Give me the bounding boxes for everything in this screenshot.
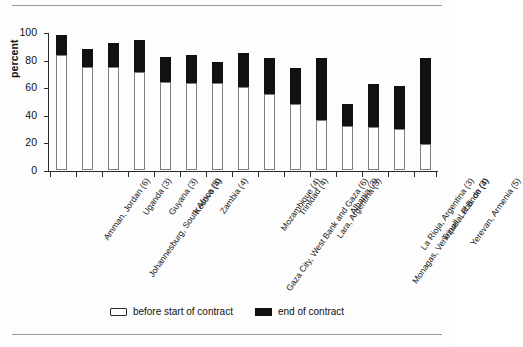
legend-label: before start of contract	[133, 306, 233, 317]
bar-stack	[316, 58, 327, 170]
x-axis-tick-labels: Amman, Jordan (6)Johannesburg, South Afr…	[48, 176, 448, 296]
bar-stack	[420, 58, 431, 170]
y-tick-label: 100	[19, 26, 37, 39]
legend-item: end of contract	[255, 306, 344, 317]
y-tick: 60	[44, 88, 49, 89]
bar-segment-end-of-contract	[316, 58, 327, 120]
bar-segment-end-of-contract	[82, 49, 93, 67]
x-axis-line	[48, 171, 438, 172]
y-tick: 20	[44, 143, 49, 144]
bar-segment-before-start-of-contract	[316, 120, 327, 170]
figure-bottom-rule	[12, 334, 442, 335]
bar-segment-before-start-of-contract	[160, 82, 171, 170]
y-tick: 80	[44, 61, 49, 62]
bar-stack	[108, 43, 119, 170]
legend-swatch-black	[255, 308, 272, 316]
bar-stack	[290, 68, 301, 170]
y-axis-line	[48, 33, 49, 172]
bar-stack	[342, 104, 353, 170]
bar-segment-before-start-of-contract	[238, 87, 249, 170]
chart-legend: before start of contractend of contract	[0, 306, 454, 317]
bar-segment-end-of-contract	[342, 104, 353, 126]
bar-segment-before-start-of-contract	[108, 67, 119, 171]
y-tick: 40	[44, 116, 49, 117]
bar-stack	[160, 57, 171, 170]
legend-swatch-white	[110, 308, 127, 316]
bar-segment-end-of-contract	[290, 68, 301, 104]
bar-segment-end-of-contract	[56, 35, 67, 56]
plot-area: 020406080100	[48, 33, 438, 171]
bar-stack	[238, 53, 249, 170]
bar-stack	[134, 40, 145, 170]
bar-segment-before-start-of-contract	[420, 144, 431, 170]
bar-segment-end-of-contract	[238, 53, 249, 88]
bar-segment-end-of-contract	[186, 55, 197, 83]
y-axis-title: percent	[8, 39, 20, 78]
bar-segment-before-start-of-contract	[212, 83, 223, 170]
bar-segment-before-start-of-contract	[290, 104, 301, 170]
y-tick-label: 0	[31, 164, 37, 177]
bar-segment-before-start-of-contract	[134, 72, 145, 170]
y-tick: 100	[44, 33, 49, 34]
bar-segment-before-start-of-contract	[264, 94, 275, 170]
x-tick-label: Gaza City, West Bank and Gaza (6)	[284, 176, 370, 293]
legend-label: end of contract	[278, 306, 344, 317]
bar-segment-before-start-of-contract	[56, 55, 67, 170]
bar-segment-end-of-contract	[134, 40, 145, 72]
bar-segment-end-of-contract	[394, 86, 405, 129]
bar-segment-before-start-of-contract	[342, 126, 353, 170]
bar-segment-before-start-of-contract	[368, 127, 379, 170]
figure-top-rule	[12, 5, 442, 6]
y-tick-label: 80	[25, 54, 37, 67]
bar-segment-end-of-contract	[212, 62, 223, 83]
bar-segment-before-start-of-contract	[82, 67, 93, 171]
bar-stack	[212, 62, 223, 170]
bar-segment-before-start-of-contract	[394, 129, 405, 170]
bar-segment-end-of-contract	[108, 43, 119, 66]
bar-segment-end-of-contract	[160, 57, 171, 82]
bar-stack	[368, 84, 379, 170]
y-tick: 0	[44, 171, 49, 172]
bar-segment-end-of-contract	[264, 58, 275, 94]
y-tick-label: 20	[25, 136, 37, 149]
bar-stack	[82, 49, 93, 170]
bar-stack	[186, 55, 197, 170]
y-tick-label: 40	[25, 109, 37, 122]
bar-stack	[394, 86, 405, 170]
bar-stack	[264, 58, 275, 170]
legend-item: before start of contract	[110, 306, 233, 317]
bar-segment-end-of-contract	[420, 58, 431, 144]
bar-segment-before-start-of-contract	[186, 83, 197, 170]
y-tick-label: 60	[25, 81, 37, 94]
bar-stack	[56, 35, 67, 170]
bar-segment-end-of-contract	[368, 84, 379, 127]
